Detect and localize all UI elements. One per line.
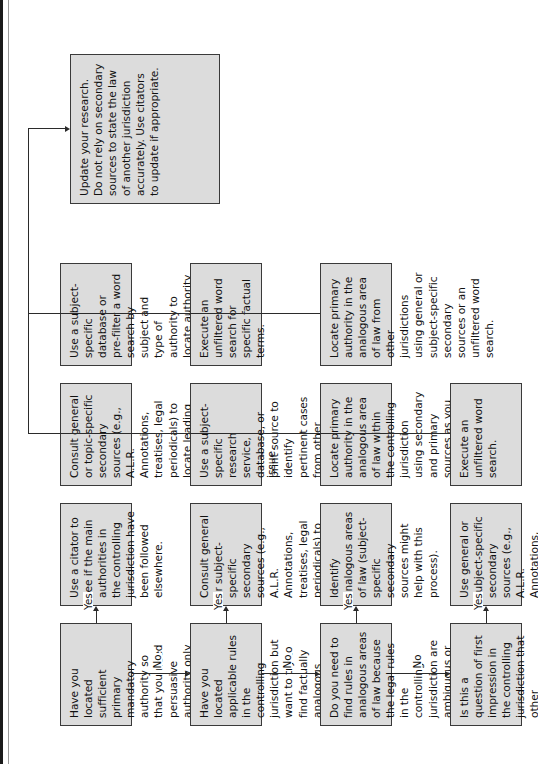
bus-horizontal	[28, 129, 29, 435]
bus-riser-row3	[28, 313, 320, 314]
action-node-row4-1: Use general or subject-specific secondar…	[450, 503, 522, 606]
edge-label-row1-no: No	[152, 653, 162, 669]
connector-row2-yes	[226, 611, 227, 623]
bus-riser-row4	[28, 433, 450, 434]
connector-row3-no	[392, 673, 445, 674]
decision-node-row1: Have you located sufficient primary mand…	[60, 623, 132, 726]
page-gutter-bar	[0, 0, 3, 764]
action-node-row4-2: Execute an unfiltered word search.	[450, 383, 522, 486]
edge-label-row1-yes: Yes	[83, 592, 93, 611]
final-node-update-research: Update your research. Do not rely on sec…	[70, 54, 220, 204]
edge-label-row4-yes: Yes	[473, 592, 483, 611]
connector-row1-no	[132, 673, 185, 674]
connector-row4-yes	[486, 611, 487, 623]
action-node-row1-3: Use a subject-specific database or pre-f…	[60, 263, 132, 366]
action-node-row1-2: Consult general or topic-specific second…	[60, 383, 132, 486]
bus-drop-to-final	[28, 128, 65, 129]
decision-node-row3: Do you need to find rules in analogous a…	[320, 623, 392, 726]
action-node-row2-3: Execute an unfiltered word search for sp…	[190, 263, 262, 366]
action-node-row3-2: Locate primary authority in the analogou…	[320, 383, 392, 486]
action-node-row2-1: Consult general or subject-specific seco…	[190, 503, 262, 606]
page-gutter-hairline	[8, 0, 9, 764]
decision-node-row4: Is this a question of first impression i…	[450, 623, 522, 726]
edge-label-row3-yes: Yes	[343, 592, 353, 611]
action-node-row3-1: Identify analogous areas of law (subject…	[320, 503, 392, 606]
action-node-row2-2: Use a subject-specific research service,…	[190, 383, 262, 486]
connector-row2-no	[262, 673, 315, 674]
connector-row1-yes	[96, 611, 97, 623]
decision-node-row2: Have you located applicable rules in the…	[190, 623, 262, 726]
action-node-row3-3: Locate primary authority in the analogou…	[320, 263, 392, 366]
edge-label-row3-no: No	[412, 653, 422, 669]
flowchart-page: Have you located sufficient primary mand…	[0, 0, 538, 764]
edge-label-row2-yes: Yes	[213, 592, 223, 611]
edge-label-row2-no: No	[282, 653, 292, 669]
action-node-row1-1: Use a citator to see if the main authori…	[60, 503, 132, 606]
connector-row3-yes	[356, 611, 357, 623]
